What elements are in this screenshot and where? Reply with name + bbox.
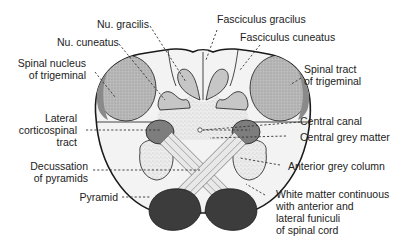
label-fasciculus-cuneatus: Fasciculus cuneatus xyxy=(240,31,335,43)
label-central-canal: Central canal xyxy=(300,115,362,127)
label-fasciculus-gracilus: Fasciculus gracilus xyxy=(217,13,306,25)
label-lateral-corticospinal-line2: corticospinal xyxy=(19,124,77,136)
label-spinal-nucleus-trigeminal: Spinal nucleus of trigeminal xyxy=(18,57,86,81)
label-white-matter-line1: White matter continuous xyxy=(276,188,389,200)
label-spinal-nucleus-trigeminal-line2: of trigeminal xyxy=(18,69,86,81)
pyramid-left xyxy=(149,189,201,231)
label-nu-gracilis: Nu. gracilis xyxy=(97,18,149,30)
label-central-grey-matter: Central grey matter xyxy=(300,131,390,143)
label-spinal-tract-trigeminal-line1: Spinal tract xyxy=(304,63,361,75)
label-white-matter-line4: of spinal cord xyxy=(276,224,389,236)
label-nu-cuneatus: Nu. cuneatus xyxy=(57,36,119,48)
pyramid-right xyxy=(205,189,257,231)
label-white-matter: White matter continuous with anterior an… xyxy=(276,188,389,236)
label-white-matter-line2: with anterior and xyxy=(276,200,389,212)
label-pyramid: Pyramid xyxy=(79,191,118,203)
label-lateral-corticospinal-tract: Lateral corticospinal tract xyxy=(19,112,77,148)
label-spinal-nucleus-trigeminal-line1: Spinal nucleus xyxy=(18,57,86,69)
label-spinal-tract-trigeminal: Spinal tract of trigeminal xyxy=(304,63,361,87)
label-decussation-line2: of pyramids xyxy=(30,172,88,184)
label-white-matter-line3: lateral funiculi xyxy=(276,212,389,224)
label-lateral-corticospinal-line3: tract xyxy=(19,136,77,148)
label-decussation-line1: Decussation xyxy=(30,160,88,172)
label-lateral-corticospinal-line1: Lateral xyxy=(19,112,77,124)
label-spinal-tract-trigeminal-line2: of trigeminal xyxy=(304,75,361,87)
central-canal xyxy=(198,128,202,132)
label-anterior-grey-column: Anterior grey column xyxy=(288,160,385,172)
label-decussation-of-pyramids: Decussation of pyramids xyxy=(30,160,88,184)
